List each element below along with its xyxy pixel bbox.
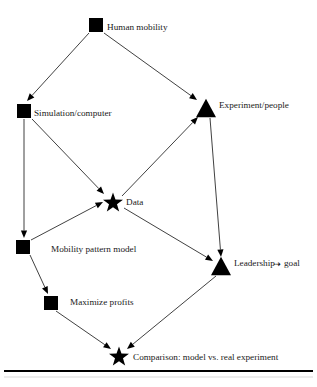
goal-label: goal xyxy=(284,258,300,268)
arrow-head-icon xyxy=(103,342,111,349)
edge-mobility-pattern-model-to-maximize xyxy=(30,255,48,294)
star-marker-icon xyxy=(103,193,123,212)
node-simulation-computer[interactable] xyxy=(17,104,31,118)
flow-diagram: Human mobilitySimulation/computerExperim… xyxy=(0,0,317,387)
node-mobility-pattern-model[interactable] xyxy=(16,240,30,254)
edge-human-mobility-to-experiment xyxy=(104,33,197,100)
node-label-experiment-people: Experiment/people xyxy=(219,100,289,110)
labels-layer: Human mobilitySimulation/computerExperim… xyxy=(34,22,300,362)
edge-line xyxy=(31,206,96,240)
edge-line xyxy=(32,33,89,95)
arrow-head-icon xyxy=(127,342,135,349)
arrow-head-icon xyxy=(217,249,223,257)
edge-leadership-to-comparison xyxy=(127,276,216,349)
arrow-head-icon xyxy=(205,254,213,261)
edge-mobility-pattern-model-to-data xyxy=(31,202,103,240)
node-maximize-profits[interactable] xyxy=(44,296,58,310)
node-data[interactable] xyxy=(103,193,123,212)
edge-experiment-to-leadership xyxy=(210,118,223,257)
node-comparison[interactable] xyxy=(109,347,129,366)
edge-line xyxy=(56,311,105,345)
triangle-marker-icon xyxy=(211,257,231,275)
node-leadership[interactable] xyxy=(211,257,231,275)
edge-simulation-to-data xyxy=(32,119,104,194)
edge-line xyxy=(210,118,220,250)
edge-line xyxy=(133,276,216,344)
node-human-mobility[interactable] xyxy=(89,18,103,32)
edge-line xyxy=(124,208,207,257)
node-label-maximize-profits: Maximize profits xyxy=(70,297,134,307)
square-marker-icon xyxy=(17,104,31,118)
square-marker-icon xyxy=(16,240,30,254)
rules-layer xyxy=(4,371,313,377)
node-label-human-mobility: Human mobility xyxy=(107,22,168,32)
edge-human-mobility-to-simulation xyxy=(27,33,89,101)
nodes-layer xyxy=(16,18,231,365)
square-marker-icon xyxy=(89,18,103,32)
square-marker-icon xyxy=(44,296,58,310)
edge-line xyxy=(30,255,45,287)
edge-line xyxy=(104,33,191,96)
star-marker-icon xyxy=(109,347,129,366)
node-label-comparison: Comparison: model vs. real experiment xyxy=(133,352,279,362)
edge-line xyxy=(32,119,99,189)
node-label-data: Data xyxy=(126,197,143,207)
arrow-head-icon xyxy=(21,231,27,239)
edge-data-to-leadership xyxy=(124,208,213,261)
triangle-marker-icon xyxy=(196,99,216,117)
node-experiment-people[interactable] xyxy=(196,99,216,117)
edge-line xyxy=(122,122,193,196)
node-label-leadership: Leadership xyxy=(234,258,275,268)
edge-maximize-to-comparison xyxy=(56,311,111,349)
edge-simulation-to-mobility-pattern-model xyxy=(21,119,27,238)
goal-arrow-icon: ⇢ xyxy=(273,258,281,269)
diagram-canvas: Human mobilitySimulation/computerExperim… xyxy=(0,0,317,387)
node-label-mobility-pattern-model: Mobility pattern model xyxy=(51,244,137,254)
node-label-simulation-computer: Simulation/computer xyxy=(34,108,112,118)
edge-data-to-experiment xyxy=(122,117,198,196)
arrow-head-icon xyxy=(189,93,197,100)
